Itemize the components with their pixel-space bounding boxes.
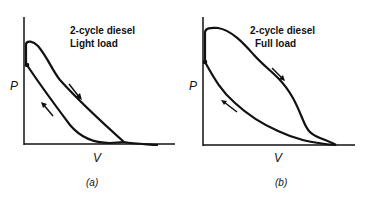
compression-curve bbox=[27, 65, 124, 143]
panel-a-title-2: Light load bbox=[70, 38, 118, 49]
panel-b-caption: (b) bbox=[275, 177, 287, 188]
state-point-dot bbox=[203, 60, 208, 65]
x-axis-label: V bbox=[93, 151, 102, 165]
panel-a-caption: (a) bbox=[86, 177, 98, 188]
x-axis-label: V bbox=[274, 151, 283, 165]
pv-diagram-figure: 2-cycle diesel Light load P V (a) 2-cycl… bbox=[0, 0, 369, 200]
panel-b: 2-cycle diesel Full load P V (b) bbox=[189, 17, 355, 188]
panel-a-title-1: 2-cycle diesel bbox=[70, 25, 135, 36]
arrow-up-icon bbox=[41, 102, 53, 116]
y-axis-label: P bbox=[189, 79, 197, 93]
state-point-dot bbox=[25, 63, 30, 68]
y-axis-label: P bbox=[10, 79, 18, 93]
panel-b-title-2: Full load bbox=[255, 38, 296, 49]
panel-b-title-1: 2-cycle diesel bbox=[250, 25, 315, 36]
panel-a: 2-cycle diesel Light load P V (a) bbox=[10, 17, 175, 188]
